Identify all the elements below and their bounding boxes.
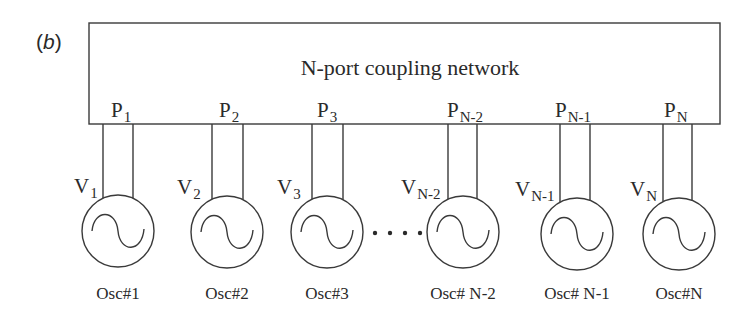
oscillator-2: V2Osc#2 (177, 175, 263, 303)
ellipsis-dot (373, 231, 377, 235)
oscillator-name: Osc# N-1 (544, 284, 610, 303)
voltage-label: VN (630, 177, 657, 204)
port-6: PN (663, 98, 692, 202)
port-label: PN (664, 98, 688, 125)
voltage-label: V1 (74, 174, 98, 201)
port-2: P2 (212, 98, 243, 200)
oscillator-name: Osc#1 (96, 284, 139, 303)
sine-wave-icon (551, 218, 603, 251)
oscillator-name: Osc#2 (205, 284, 248, 303)
voltage-label: VN-1 (515, 177, 555, 204)
oscillator-name: Osc#3 (305, 284, 348, 303)
oscillator-4: VN-2Osc# N-2 (401, 175, 499, 303)
sine-wave-icon (437, 216, 489, 249)
ellipsis-dots (373, 231, 422, 235)
oscillator-3: V3Osc#3 (277, 175, 363, 303)
oscillator-5: VN-1Osc# N-1 (515, 177, 613, 303)
oscillator-1: V1Osc#1 (74, 174, 154, 303)
coupling-network-diagram: (b) N-port coupling network P1P2P3PN-2PN… (0, 0, 755, 316)
voltage-label: VN-2 (401, 175, 441, 202)
ellipsis-dot (403, 231, 407, 235)
port-label: PN-2 (447, 98, 483, 125)
port-label: P2 (219, 98, 239, 125)
sine-wave-icon (92, 215, 144, 248)
ellipsis-dot (388, 231, 392, 235)
port-label: P1 (111, 98, 131, 125)
oscillator-6: VNOsc#N (630, 177, 715, 303)
sine-wave-icon (653, 218, 705, 251)
port-3: P3 (312, 98, 343, 200)
voltage-label: V3 (277, 175, 301, 202)
port-5: PN-1 (555, 98, 591, 202)
sine-wave-icon (201, 216, 253, 249)
port-1: P1 (103, 98, 133, 198)
ellipsis-dot (418, 231, 422, 235)
network-title: N-port coupling network (301, 55, 520, 80)
port-label: PN-1 (555, 98, 591, 125)
panel-label: (b) (36, 30, 62, 53)
oscillators-group: V1Osc#1V2Osc#2V3Osc#3VN-2Osc# N-2VN-1Osc… (74, 174, 715, 303)
oscillator-name: Osc#N (655, 284, 702, 303)
port-4: PN-2 (447, 98, 483, 199)
voltage-label: V2 (177, 175, 201, 202)
oscillator-name: Osc# N-2 (430, 284, 496, 303)
port-label: P3 (317, 98, 337, 125)
sine-wave-icon (301, 216, 353, 249)
